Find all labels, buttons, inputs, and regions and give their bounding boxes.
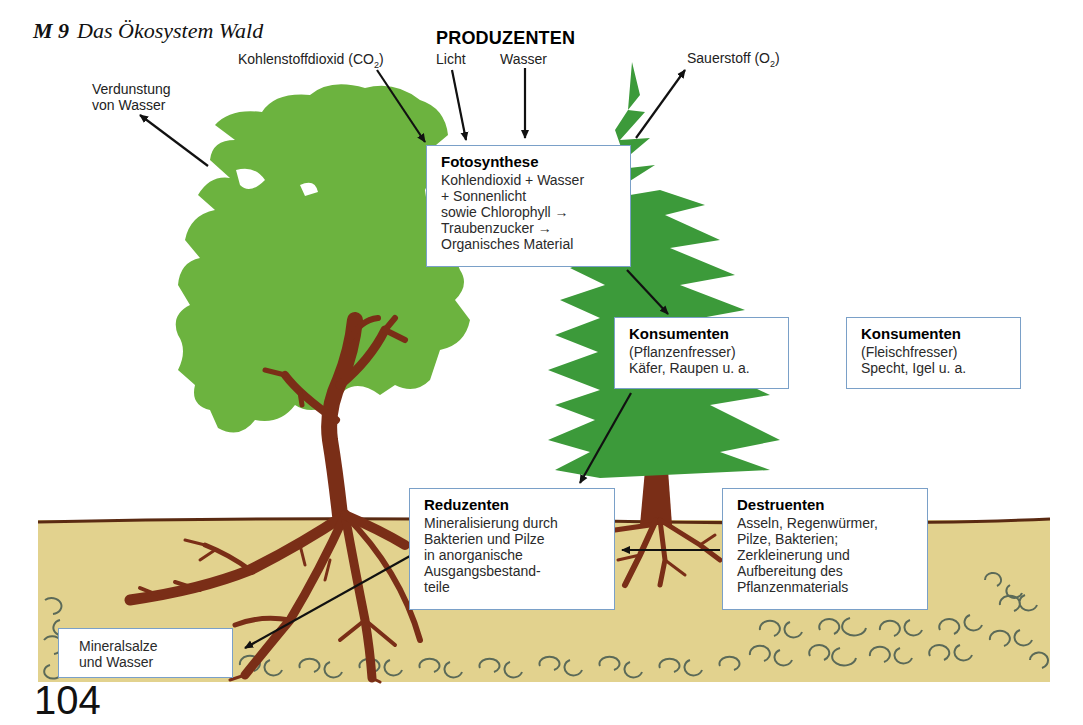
destruenten-box: Destruenten Asseln, Regenwürmer, Pilze, … <box>722 488 928 610</box>
figure-title-text: Das Ökosystem Wald <box>77 18 263 43</box>
fotosynthese-line: sowie Chlorophyll → <box>441 204 620 220</box>
co2-label-text: Kohlenstoffdioxid (CO <box>238 51 374 67</box>
reduzenten-line: teile <box>424 579 604 595</box>
konsumenten-pflanzenfresser-title: Konsumenten <box>629 326 778 342</box>
conifer-tree <box>548 62 780 525</box>
sauerstoff-label: Sauerstoff (O2) <box>687 50 780 72</box>
reduzenten-line: Bakterien und Pilze <box>424 531 604 547</box>
reduzenten-title: Reduzenten <box>424 497 604 513</box>
verdunstung-line-2: von Wasser <box>92 97 171 113</box>
mineralsalze-box: Mineralsalze und Wasser <box>58 628 233 678</box>
figure-label: M 9 <box>33 18 69 43</box>
sauerstoff-close: ) <box>775 50 780 66</box>
sauerstoff-arrow <box>636 70 685 138</box>
destruenten-line: Asseln, Regenwürmer, <box>737 515 917 531</box>
conifer-trunk <box>640 470 672 525</box>
mineralsalze-line: Mineralsalze <box>79 638 222 654</box>
konsumenten-fleischfresser-title: Konsumenten <box>861 326 1010 342</box>
fotosynthese-box: Fotosynthese Kohlendioxid + Wasser + Son… <box>426 145 631 267</box>
co2-close: ) <box>379 51 384 67</box>
konsumenten-pflanzenfresser-line: Käfer, Raupen u. a. <box>629 360 778 376</box>
destruenten-line: Pilze, Bakterien; <box>737 531 917 547</box>
fotosynthese-line: + Sonnenlicht <box>441 188 620 204</box>
fotosynthese-line: Organisches Material <box>441 236 620 252</box>
page-number: 104 <box>34 680 101 720</box>
licht-label: Licht <box>436 51 466 67</box>
fotosynthese-title: Fotosynthese <box>441 154 620 170</box>
konsumenten-fleischfresser-line: Specht, Igel u. a. <box>861 360 1010 376</box>
fotosynthese-line: Traubenzucker → <box>441 220 620 236</box>
reduzenten-line: Mineralisierung durch <box>424 515 604 531</box>
licht-arrow <box>452 70 466 140</box>
destruenten-line: Aufbereitung des <box>737 563 917 579</box>
co2-label: Kohlenstoffdioxid (CO2) <box>238 51 384 73</box>
konsumenten-fleischfresser-line: (Fleischfresser) <box>861 344 1010 360</box>
reduzenten-line: in anorganische <box>424 547 604 563</box>
verdunstung-arrow <box>140 115 208 166</box>
verdunstung-line-1: Verdunstung <box>92 81 171 97</box>
konsumenten-pflanzenfresser-box: Konsumenten (Pflanzenfresser) Käfer, Rau… <box>614 317 789 389</box>
wasser-label: Wasser <box>500 51 547 67</box>
destruenten-line: Pflanzenmaterials <box>737 579 917 595</box>
destruenten-title: Destruenten <box>737 497 917 513</box>
produzenten-heading: PRODUZENTEN <box>436 28 575 49</box>
verdunstung-label: Verdunstung von Wasser <box>92 81 171 113</box>
konsumenten-pflanzenfresser-line: (Pflanzenfresser) <box>629 344 778 360</box>
sauerstoff-label-text: Sauerstoff (O <box>687 50 770 66</box>
mineralsalze-line: und Wasser <box>79 654 222 670</box>
figure-title: M 9Das Ökosystem Wald <box>33 18 263 44</box>
destruenten-line: Zerkleinerung und <box>737 547 917 563</box>
reduzenten-box: Reduzenten Mineralisierung durch Bakteri… <box>409 488 615 610</box>
reduzenten-line: Ausgangsbestand- <box>424 563 604 579</box>
fotosynthese-line: Kohlendioxid + Wasser <box>441 172 620 188</box>
konsumenten-fleischfresser-box: Konsumenten (Fleischfresser) Specht, Ige… <box>846 317 1021 389</box>
